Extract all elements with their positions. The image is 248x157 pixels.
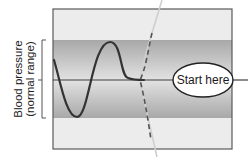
normal-range-bracket — [38, 40, 46, 118]
y-axis-label-line2: (normal range) — [24, 40, 36, 117]
start-here-label: Start here — [173, 72, 233, 88]
y-axis-label-line1: Blood pressure — [12, 40, 24, 117]
